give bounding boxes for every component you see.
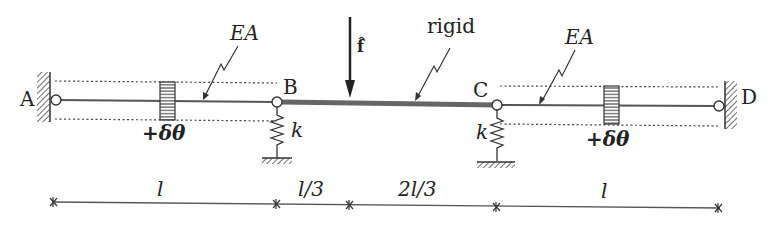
fixed-support-A <box>37 72 50 122</box>
thermal-element-left <box>160 82 175 120</box>
spring-label-C: k <box>476 120 488 144</box>
fixed-support-D <box>725 81 737 129</box>
dim-label-4: l <box>601 179 607 203</box>
node-label-B: B <box>283 75 298 99</box>
rigid-label: rigid <box>427 14 475 38</box>
ea-pointer-right <box>542 50 575 101</box>
hinge-C <box>492 100 502 110</box>
hinge-A <box>51 95 61 105</box>
load-arrow <box>345 17 355 98</box>
thermal-label-right: +δθ <box>586 127 630 151</box>
rigid-arrowhead <box>415 92 421 101</box>
dim-label-2: l/3 <box>298 177 324 201</box>
dim-label-1: l <box>157 177 163 201</box>
node-label-C: C <box>473 78 488 102</box>
ea-pointer-left <box>205 46 238 96</box>
spring-B <box>262 107 292 164</box>
thermal-label-left: +δθ <box>142 121 186 145</box>
dim-label-3: 2l/3 <box>397 177 437 201</box>
hinge-D <box>714 101 724 111</box>
hinge-B <box>272 97 282 107</box>
structural-diagram: A +δθ EA B k f̂ rigid C <box>0 0 782 229</box>
rigid-beam-BC <box>281 102 497 105</box>
ea-label-left: EA <box>229 21 259 45</box>
ea-label-right: EA <box>564 25 594 49</box>
spring-label-B: k <box>291 118 303 142</box>
node-label-D: D <box>741 85 757 109</box>
thermal-element-right <box>604 86 619 124</box>
node-label-A: A <box>19 87 35 111</box>
load-label: f̂ <box>357 37 365 56</box>
rigid-pointer <box>418 48 450 96</box>
dimension-line <box>50 197 722 213</box>
